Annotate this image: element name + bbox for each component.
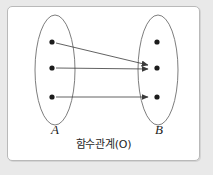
set-b-element-dot xyxy=(154,39,159,44)
mapping-arrow-a2-b2 xyxy=(56,68,148,69)
mapping-arrow-a1-b2 xyxy=(56,43,148,65)
set-a-ellipse xyxy=(35,15,75,125)
set-b-element-dot xyxy=(154,94,159,99)
set-a-element-dot xyxy=(49,39,54,44)
set-a-element-dot xyxy=(49,65,54,70)
set-a-label: A xyxy=(43,123,67,136)
figure-caption: 함수관계(O) xyxy=(7,138,200,151)
set-b-element-dot xyxy=(154,65,159,70)
set-a-element-dot xyxy=(49,94,54,99)
figure-root: A B 함수관계(O) xyxy=(0,0,213,175)
set-b-label: B xyxy=(147,123,171,136)
